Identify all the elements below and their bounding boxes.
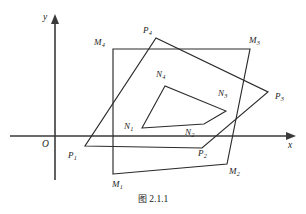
x-axis-label: x [288,141,292,151]
vertex-label-M2-base: M [229,166,237,176]
x-axis [10,132,296,140]
figure-drawing [0,0,306,214]
vertex-label-M2: M2 [229,167,240,176]
x-axis-arrowhead [286,132,296,140]
vertex-label-P4: P4 [143,26,152,35]
caption-number: 2.1.1 [147,194,168,204]
vertex-label-N3-subscript: 3 [224,92,227,99]
quadrilateral-m-shape [113,49,250,174]
y-axis [51,14,59,180]
caption-label: 图 [138,194,147,204]
vertex-label-N1: N1 [124,122,133,131]
vertex-label-P2-base: P [198,148,204,158]
vertex-label-N2-subscript: 2 [191,131,194,138]
quadrilateral-n-shape [142,86,226,128]
vertex-label-M3: M3 [249,36,260,45]
vertex-label-N3: N3 [218,89,227,98]
vertex-label-N2: N2 [185,128,194,137]
vertex-label-M2-subscript: 2 [237,170,240,177]
vertex-label-P3-base: P [275,91,281,101]
vertex-label-P4-base: P [143,25,149,35]
vertex-label-P2-subscript: 2 [204,152,207,159]
vertex-label-N4-subscript: 4 [162,73,165,80]
vertex-label-P1-base: P [68,150,74,160]
figure-container: x y O M1M2M3M4P1P2P3P4N1N2N3N4 图 2.1.1 [0,0,306,214]
vertex-label-P1-subscript: 1 [74,154,77,161]
vertex-label-N1-subscript: 1 [130,125,133,132]
vertex-label-P4-subscript: 4 [149,29,152,36]
vertex-label-N4: N4 [156,70,165,79]
vertex-label-M4-base: M [94,37,102,47]
vertex-label-M1: M1 [112,180,123,189]
figure-caption: 图 2.1.1 [0,192,306,205]
vertex-label-M4: M4 [94,38,105,47]
y-axis-label: y [43,13,47,23]
vertex-label-M3-subscript: 3 [257,39,260,46]
y-axis-arrowhead [51,14,59,24]
vertex-label-P1: P1 [68,151,77,160]
vertex-label-P3-subscript: 3 [281,95,284,102]
vertex-label-P2: P2 [198,149,207,158]
vertex-label-M4-subscript: 4 [102,41,105,48]
vertex-label-M3-base: M [249,35,257,45]
vertex-label-M1-subscript: 1 [120,183,123,190]
vertex-label-M1-base: M [112,179,120,189]
vertex-label-P3: P3 [275,92,284,101]
origin-label: O [42,140,49,150]
